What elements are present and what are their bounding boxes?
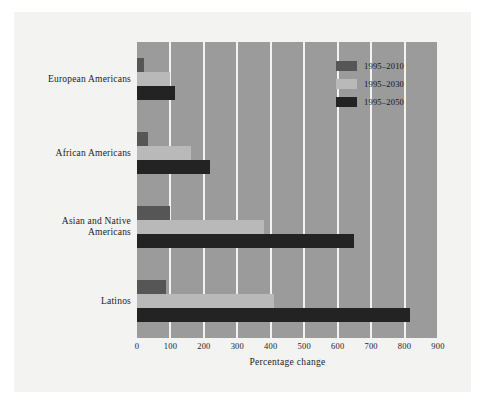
legend-item: 1995–2050 bbox=[336, 94, 432, 110]
legend-label: 1995–2050 bbox=[364, 97, 404, 107]
category-axis-labels: European AmericansAfrican AmericansAsian… bbox=[0, 42, 131, 338]
x-tick-label-0: 0 bbox=[135, 341, 139, 351]
category-label: European Americans bbox=[3, 74, 131, 85]
bar bbox=[137, 206, 170, 220]
bar bbox=[137, 86, 175, 100]
x-tick-label-500: 500 bbox=[298, 341, 311, 351]
bar bbox=[137, 294, 274, 308]
category-label-line: Asian and Native bbox=[3, 216, 131, 227]
category-label-line: Americans bbox=[3, 227, 131, 238]
bar bbox=[137, 72, 170, 86]
legend-label: 1995–2010 bbox=[364, 61, 404, 71]
x-tick-label-800: 800 bbox=[398, 341, 411, 351]
category-label-line: Latinos bbox=[3, 296, 131, 307]
bar bbox=[137, 160, 210, 174]
chart-legend: 1995–20101995–20301995–2050 bbox=[336, 58, 432, 112]
legend-swatch-icon bbox=[336, 61, 357, 71]
gridline-500 bbox=[303, 42, 305, 338]
x-tick-label-600: 600 bbox=[331, 341, 344, 351]
bar bbox=[137, 308, 410, 322]
legend-item: 1995–2010 bbox=[336, 58, 432, 74]
x-tick-label-700: 700 bbox=[364, 341, 377, 351]
x-axis-tick-labels: 0100200300400500600700800900 bbox=[137, 341, 438, 355]
x-axis-title: Percentage change bbox=[137, 357, 438, 367]
gridline-900 bbox=[437, 42, 439, 338]
legend-swatch-icon bbox=[336, 79, 357, 89]
x-tick-label-200: 200 bbox=[197, 341, 210, 351]
chart-figure: European AmericansAfrican AmericansAsian… bbox=[0, 0, 485, 416]
x-tick-label-300: 300 bbox=[231, 341, 244, 351]
category-label: Asian and NativeAmericans bbox=[3, 216, 131, 238]
bar bbox=[137, 132, 148, 146]
x-tick-label-900: 900 bbox=[431, 341, 444, 351]
legend-swatch-icon bbox=[336, 97, 357, 107]
category-label: Latinos bbox=[3, 296, 131, 307]
legend-item: 1995–2030 bbox=[336, 76, 432, 92]
bar bbox=[137, 146, 191, 160]
bar bbox=[137, 280, 166, 294]
bar bbox=[137, 220, 264, 234]
legend-label: 1995–2030 bbox=[364, 79, 404, 89]
category-label-line: European Americans bbox=[3, 74, 131, 85]
category-label-line: African Americans bbox=[3, 148, 131, 159]
x-tick-label-400: 400 bbox=[264, 341, 277, 351]
bar bbox=[137, 234, 354, 248]
bar bbox=[137, 58, 144, 72]
category-label: African Americans bbox=[3, 148, 131, 159]
x-tick-label-100: 100 bbox=[164, 341, 177, 351]
